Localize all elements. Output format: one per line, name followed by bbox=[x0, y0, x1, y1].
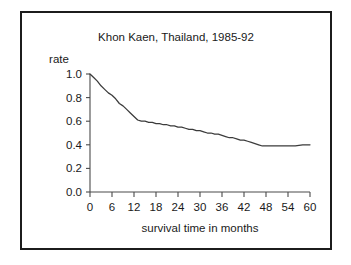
x-tick-label: 54 bbox=[282, 201, 295, 213]
x-axis-title-group: survival time in months bbox=[142, 222, 259, 234]
figure-frame: Khon Kaen, Thailand, 1985-92 rate 0.00.2… bbox=[20, 11, 332, 250]
chart-title: Khon Kaen, Thailand, 1985-92 bbox=[98, 31, 254, 43]
x-tick-label: 0 bbox=[87, 201, 93, 213]
x-tick-label: 48 bbox=[260, 201, 273, 213]
y-tick-label: 0.0 bbox=[66, 186, 82, 198]
x-tick-label: 36 bbox=[216, 201, 229, 213]
y-axis-title-group: rate bbox=[49, 53, 69, 65]
y-axis-ticks: 0.00.20.40.60.81.0 bbox=[66, 68, 90, 198]
x-tick-label: 24 bbox=[172, 201, 185, 213]
axes bbox=[90, 74, 310, 192]
x-tick-label: 18 bbox=[150, 201, 163, 213]
y-tick-label: 0.4 bbox=[66, 139, 83, 151]
x-tick-label: 30 bbox=[194, 201, 207, 213]
x-axis-title: survival time in months bbox=[142, 222, 259, 234]
survival-chart: Khon Kaen, Thailand, 1985-92 rate 0.00.2… bbox=[22, 13, 330, 248]
x-tick-label: 6 bbox=[109, 201, 115, 213]
x-tick-label: 60 bbox=[304, 201, 317, 213]
y-tick-label: 0.6 bbox=[66, 115, 82, 127]
y-axis-title: rate bbox=[49, 53, 69, 65]
y-tick-label: 0.2 bbox=[66, 162, 82, 174]
survival-curve bbox=[90, 74, 310, 146]
y-tick-label: 0.8 bbox=[66, 92, 82, 104]
x-tick-label: 12 bbox=[128, 201, 141, 213]
y-tick-label: 1.0 bbox=[66, 68, 82, 80]
figure-root: Khon Kaen, Thailand, 1985-92 rate 0.00.2… bbox=[0, 0, 351, 265]
x-axis-ticks: 06121824303642485460 bbox=[87, 192, 317, 213]
x-tick-label: 42 bbox=[238, 201, 251, 213]
chart-title-group: Khon Kaen, Thailand, 1985-92 bbox=[98, 31, 254, 43]
